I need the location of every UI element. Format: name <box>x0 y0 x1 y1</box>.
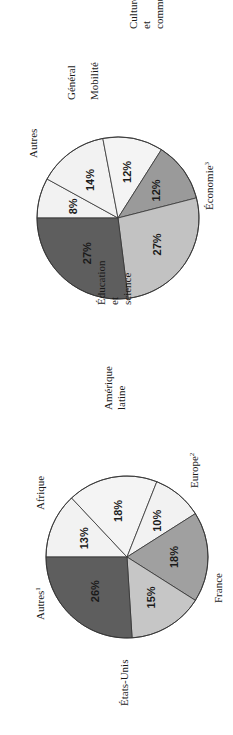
slice-percent-label: 18% <box>168 546 180 568</box>
slice-percent-label: 27% <box>81 242 93 264</box>
slice-percent-label: 14% <box>84 169 96 191</box>
category-label-france: France <box>212 573 224 603</box>
slice-percent-label: 27% <box>151 233 163 255</box>
pie-chart-regions: 13%18%10%18%15%26%Autres1AfriqueAmérique… <box>34 366 224 706</box>
category-label-etats-unis: États-Unis <box>118 660 130 706</box>
category-label-autres: Autres1 <box>34 587 46 620</box>
category-label-economie: Économie3 <box>203 161 215 210</box>
slice-percent-label: 12% <box>150 179 162 201</box>
category-label-europe: Europe2 <box>188 452 200 488</box>
pie-chart-themes: 8%14%12%12%27%27%MobilitéAutresGénéralCu… <box>27 0 215 305</box>
category-label-general: Général <box>65 65 77 100</box>
slice-percent-label: 26% <box>89 580 101 602</box>
category-label-amerique-latine: Amériquelatine <box>102 366 127 410</box>
slice-percent-label: 12% <box>121 161 133 183</box>
chart-page: 8%14%12%12%27%27%MobilitéAutresGénéralCu… <box>0 0 233 735</box>
slice-percent-label: 8% <box>67 198 79 214</box>
slice-percent-label: 18% <box>112 500 124 522</box>
slice-percent-label: 15% <box>145 586 157 608</box>
slice-percent-label: 10% <box>151 510 163 532</box>
category-label-culture-et-communications: Cultureetcommunications <box>127 0 165 29</box>
category-label-mobilite: Mobilité <box>88 62 100 100</box>
category-label-autres: Autres <box>27 129 39 158</box>
slice-percent-label: 13% <box>78 527 90 549</box>
category-label-afrique: Afrique <box>34 476 46 510</box>
